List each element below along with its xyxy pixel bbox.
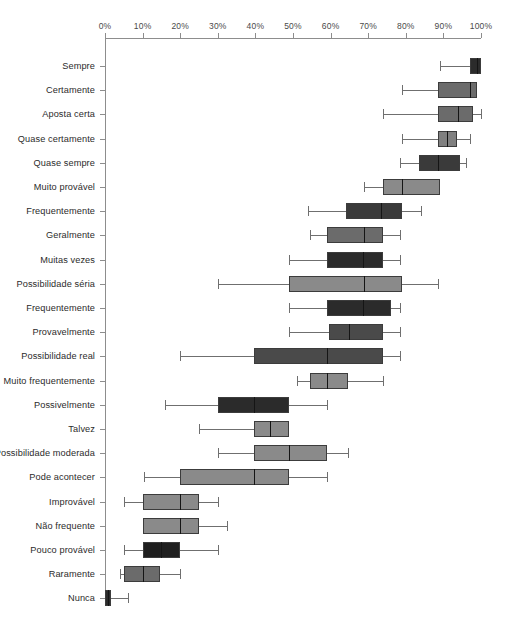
whisker-low xyxy=(144,477,180,478)
whisker-cap-low xyxy=(310,230,311,240)
whisker-high xyxy=(180,550,218,551)
y-tick xyxy=(100,429,105,430)
y-tick xyxy=(100,453,105,454)
median-line xyxy=(180,494,181,510)
y-tick xyxy=(100,66,105,67)
category-label-20: Pouco provável xyxy=(30,545,95,555)
whisker-cap-low xyxy=(218,448,219,458)
whisker-high xyxy=(289,405,327,406)
box xyxy=(310,373,348,389)
whisker-cap-low xyxy=(308,206,309,216)
box xyxy=(438,82,477,98)
median-line xyxy=(402,179,403,195)
whisker-cap-high xyxy=(400,351,401,361)
box xyxy=(327,300,391,316)
whisker-low xyxy=(289,308,327,309)
whisker-high xyxy=(199,502,218,503)
whisker-cap-high xyxy=(400,230,401,240)
whisker-high xyxy=(383,356,400,357)
whisker-high xyxy=(473,114,481,115)
x-tick-90% xyxy=(443,33,444,38)
whisker-low xyxy=(218,284,289,285)
x-tick-0% xyxy=(105,33,106,38)
x-tick-label: 40% xyxy=(247,21,265,31)
x-tick-20% xyxy=(180,33,181,38)
category-label-13: Muito frequentemente xyxy=(4,376,95,386)
category-label-5: Muito provável xyxy=(34,182,95,192)
whisker-cap-low xyxy=(218,279,219,289)
whisker-high xyxy=(402,211,421,212)
category-label-16: Possibilidade moderada xyxy=(0,448,95,458)
whisker-high xyxy=(199,526,227,527)
whisker-low xyxy=(289,332,328,333)
median-line xyxy=(381,203,382,219)
median-line xyxy=(364,227,365,243)
whisker-low xyxy=(308,211,346,212)
y-tick xyxy=(100,163,105,164)
whisker-cap-low xyxy=(289,303,290,313)
whisker-cap-high xyxy=(421,206,422,216)
whisker-low xyxy=(218,453,254,454)
y-tick xyxy=(100,260,105,261)
whisker-cap-high xyxy=(227,521,228,531)
category-label-12: Possibilidade real xyxy=(21,351,95,361)
median-line xyxy=(161,542,162,558)
y-tick xyxy=(100,284,105,285)
median-line xyxy=(254,397,255,413)
y-tick xyxy=(100,526,105,527)
x-tick-30% xyxy=(218,33,219,38)
x-tick-label: 100% xyxy=(470,21,493,31)
y-tick xyxy=(100,139,105,140)
x-tick-label: 70% xyxy=(359,21,377,31)
y-tick xyxy=(100,332,105,333)
category-label-22: Nunca xyxy=(68,593,95,603)
whisker-low xyxy=(383,114,438,115)
whisker-cap-low xyxy=(297,376,298,386)
category-label-6: Frequentemente xyxy=(26,206,95,216)
x-tick-60% xyxy=(331,33,332,38)
box xyxy=(143,518,199,534)
whisker-low xyxy=(400,163,419,164)
x-tick-70% xyxy=(368,33,369,38)
whisker-high xyxy=(383,260,400,261)
category-label-9: Possibilidade séria xyxy=(16,279,95,289)
category-label-1: Certamente xyxy=(46,85,95,95)
x-tick-label: 10% xyxy=(134,21,152,31)
whisker-cap-high xyxy=(438,279,439,289)
whisker-cap-high xyxy=(383,376,384,386)
y-tick xyxy=(100,502,105,503)
x-tick-label: 0% xyxy=(99,21,112,31)
category-label-19: Não frequente xyxy=(35,521,95,531)
median-line xyxy=(470,82,471,98)
median-line xyxy=(477,58,478,74)
median-line xyxy=(108,590,109,606)
whisker-cap-low xyxy=(124,497,125,507)
y-tick xyxy=(100,187,105,188)
whisker-cap-high xyxy=(466,158,467,168)
whisker-high xyxy=(383,332,400,333)
x-tick-80% xyxy=(406,33,407,38)
whisker-cap-low xyxy=(364,182,365,192)
whisker-cap-high xyxy=(470,134,471,144)
whisker-low xyxy=(402,139,438,140)
whisker-cap-low xyxy=(402,134,403,144)
category-label-8: Muitas vezes xyxy=(40,255,95,265)
median-line xyxy=(363,252,364,268)
whisker-cap-high xyxy=(128,593,129,603)
x-tick-50% xyxy=(293,33,294,38)
category-label-14: Possivelmente xyxy=(34,400,95,410)
whisker-cap-low xyxy=(289,327,290,337)
whisker-low xyxy=(440,66,470,67)
category-label-4: Quase sempre xyxy=(34,158,95,168)
whisker-high xyxy=(391,308,400,309)
x-tick-label: 90% xyxy=(435,21,453,31)
whisker-low xyxy=(165,405,218,406)
whisker-cap-low xyxy=(400,158,401,168)
box xyxy=(470,58,481,74)
median-line xyxy=(438,155,439,171)
whisker-high xyxy=(111,598,128,599)
x-tick-label: 30% xyxy=(209,21,227,31)
whisker-low xyxy=(402,90,438,91)
whisker-cap-low xyxy=(165,400,166,410)
whisker-low xyxy=(364,187,383,188)
